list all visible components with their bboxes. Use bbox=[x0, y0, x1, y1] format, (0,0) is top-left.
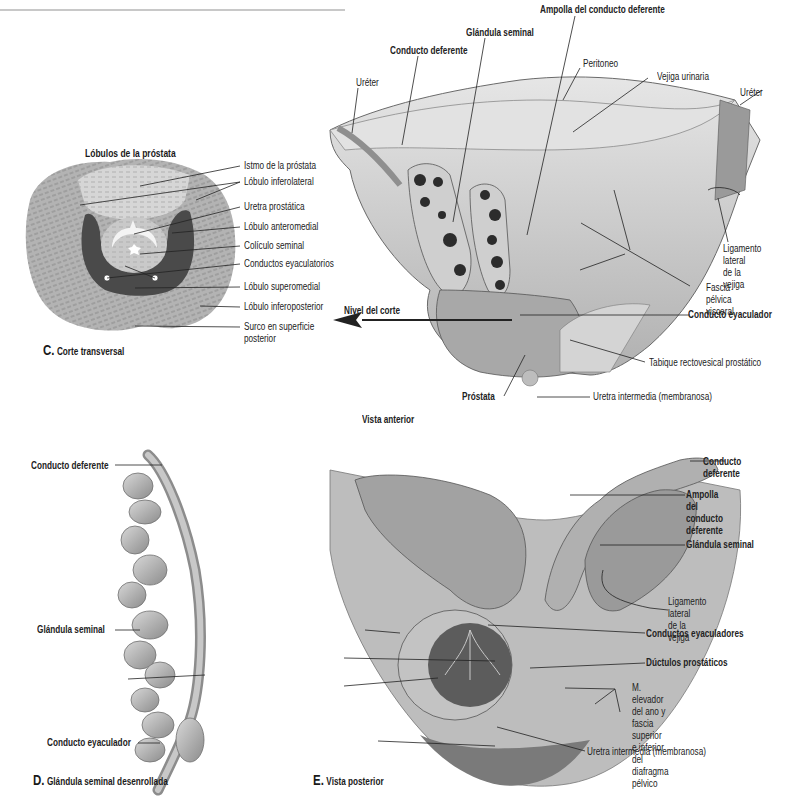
label-d-glandula-seminal: Glándula seminal bbox=[37, 624, 105, 636]
caption-letter: D. bbox=[33, 772, 44, 788]
label-lobulo-superomedial: Lóbulo superomedial bbox=[244, 281, 320, 293]
caption-letter: C. bbox=[43, 342, 54, 358]
panel-e-caption: E.Vista posterior bbox=[313, 772, 384, 788]
label-ureter-left: Uréter bbox=[356, 77, 379, 89]
panel-c-cross-section: Lóbulos de la próstata Istmo de la próst… bbox=[0, 0, 811, 808]
label-prostata: Próstata bbox=[462, 391, 495, 403]
label-uretra-prostatica: Uretra prostática bbox=[244, 201, 305, 213]
label-e-ductulos: Dúctulos prostáticos bbox=[646, 657, 728, 669]
label-glandula-seminal: Glándula seminal bbox=[466, 27, 534, 39]
label-surco-posterior: Surco en superficie posterior bbox=[244, 321, 314, 345]
label-conductos-eyaculatorios: Conductos eyaculatorios bbox=[244, 258, 334, 270]
label-e-uretra-intermedia: Uretra intermedia (membranosa) bbox=[587, 746, 706, 758]
panel-anterior-caption: Vista anterior bbox=[362, 414, 414, 426]
label-e-elevador: M. elevador del ano y fascia superior e … bbox=[632, 682, 668, 790]
prostate-cross-section-illustration bbox=[0, 0, 811, 808]
panel-c-caption: C.Corte transversal bbox=[43, 342, 124, 358]
label-d-conducto-eyaculador: Conducto eyaculador bbox=[47, 737, 131, 749]
caption-text: Corte transversal bbox=[57, 346, 124, 357]
label-conducto-eyaculador: Conducto eyaculador bbox=[688, 309, 772, 321]
label-conducto-deferente: Conducto deferente bbox=[390, 45, 467, 57]
label-e-ampolla: Ampolla del conducto deferente bbox=[686, 489, 723, 537]
label-d-conducto-deferente: Conducto deferente bbox=[31, 460, 108, 472]
caption-text: Vista posterior bbox=[326, 776, 383, 787]
label-lobulo-anteromedial: Lóbulo anteromedial bbox=[244, 221, 318, 233]
label-e-conductos-eyaculadores: Conductos eyaculadores bbox=[646, 628, 744, 640]
label-lobulo-inferoposterior: Lóbulo inferoposterior bbox=[244, 301, 323, 313]
label-vejiga-urinaria: Vejiga urinaria bbox=[657, 71, 709, 83]
label-e-conducto-deferente: Conducto deferente bbox=[703, 456, 741, 480]
label-coliculo-seminal: Colículo seminal bbox=[244, 240, 304, 252]
label-nivel-del-corte: Nivel del corte bbox=[344, 305, 400, 317]
label-ampolla: Ampolla del conducto deferente bbox=[540, 4, 665, 16]
panel-c-heading: Lóbulos de la próstata bbox=[85, 148, 176, 159]
label-tabique-rectovesical: Tabique rectovesical prostático bbox=[649, 357, 761, 369]
label-peritoneo: Peritoneo bbox=[583, 58, 618, 70]
panel-d-caption: D.Glándula seminal desenrollada bbox=[33, 772, 168, 788]
label-lobulo-inferolateral: Lóbulo inferolateral bbox=[244, 176, 314, 188]
label-ureter-right: Uréter bbox=[740, 87, 763, 99]
label-uretra-intermedia: Uretra intermedia (membranosa) bbox=[593, 391, 712, 403]
label-istmo: Istmo de la próstata bbox=[244, 160, 316, 172]
caption-letter: E. bbox=[313, 772, 324, 788]
label-e-glandula-seminal: Glándula seminal bbox=[686, 539, 754, 551]
caption-text: Glándula seminal desenrollada bbox=[47, 776, 168, 787]
